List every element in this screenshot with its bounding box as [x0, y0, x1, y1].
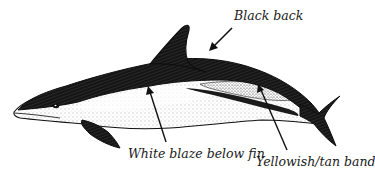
eye-highlight [55, 105, 57, 106]
dolphin-diagram: Black back White blaze below fin Yellowi… [0, 0, 375, 174]
label-white-blaze: White blaze below fin [128, 148, 265, 161]
label-tan-band: Yellowish/tan band [256, 156, 375, 169]
arrow-black-back [209, 28, 232, 51]
label-black-back: Black back [234, 10, 303, 23]
